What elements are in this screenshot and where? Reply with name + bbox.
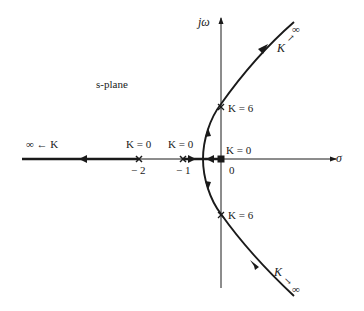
upper-asymptote-inf: ∞ <box>292 24 300 35</box>
real-axis-label: σ <box>336 152 342 164</box>
arrow-lower-near-icon <box>205 181 211 190</box>
plane-label: s-plane <box>96 79 128 90</box>
root-locus-plot <box>0 0 364 311</box>
left-asymptote-label: ∞ ← K <box>26 139 58 150</box>
origin-label: 0 <box>229 165 235 176</box>
tick-minus-1: − 1 <box>176 165 190 176</box>
pole-minus-1-gain: K = 0 <box>168 139 193 150</box>
arrow-from-origin-icon <box>206 155 214 163</box>
crossing-upper-gain: K = 6 <box>228 103 253 114</box>
upper-asymptote-arrow: ↗ <box>287 34 295 43</box>
arrow-upper-near-icon <box>205 128 211 137</box>
arrow-lower-far-icon <box>250 260 259 270</box>
tick-minus-2: − 2 <box>131 165 145 176</box>
upper-asymptote-K: K <box>277 42 285 54</box>
pole-origin-icon <box>218 156 225 163</box>
lower-asymptote-inf: ∞ <box>292 284 300 295</box>
arrow-from-minus1-icon <box>188 155 196 163</box>
lower-asymptote-arrow: ↘ <box>284 277 292 286</box>
pole-origin-gain: K = 0 <box>226 145 251 156</box>
lower-asymptote-K: K <box>274 266 282 278</box>
imag-axis-label: jω <box>198 16 210 28</box>
pole-minus-2-gain: K = 0 <box>126 139 151 150</box>
arrow-left-branch-icon <box>79 155 87 163</box>
crossing-lower-gain: K = 6 <box>228 210 253 221</box>
